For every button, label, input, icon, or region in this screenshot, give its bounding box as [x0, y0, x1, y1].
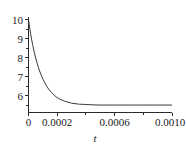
x-tick-label-0.0010: 0.0010 — [155, 116, 186, 128]
y-axis-group: 10 9 8 7 6 — [12, 14, 29, 114]
x-tick-label-0.0006: 0.0006 — [99, 116, 130, 128]
y-tick-label-8: 8 — [18, 52, 24, 64]
y-tick-label-9: 9 — [18, 33, 24, 45]
x-tick-label-0: 0 — [26, 116, 32, 128]
chart-container: 10 9 8 7 6 0 0.0002 0.0006 0.0010 t — [0, 0, 186, 151]
decay-curve-line — [29, 20, 173, 106]
y-tick-label-10: 10 — [12, 14, 24, 26]
y-tick-label-7: 7 — [18, 71, 24, 83]
x-tick-label-0.0002: 0.0002 — [42, 116, 72, 128]
x-axis-group: 0 0.0002 0.0006 0.0010 t — [26, 113, 186, 145]
x-axis-label: t — [93, 132, 97, 144]
decay-curve-chart: 10 9 8 7 6 0 0.0002 0.0006 0.0010 t — [0, 0, 186, 151]
y-tick-label-6: 6 — [18, 90, 24, 102]
